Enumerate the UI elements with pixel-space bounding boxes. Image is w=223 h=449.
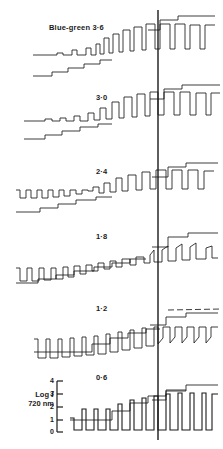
row-label-1-2: 1·2 xyxy=(96,304,107,313)
axis-tick-label-1: 1 xyxy=(46,416,54,423)
axis-tick-label-4: 4 xyxy=(46,377,54,384)
traces-plot xyxy=(0,0,223,449)
dashed-level-line-1-2 xyxy=(168,309,222,310)
stimulus-staircase-3-6 xyxy=(33,60,112,76)
stimulus-staircase-3-0 xyxy=(24,124,112,139)
response-trace-1-8 xyxy=(16,243,218,281)
trace-row-1-2 xyxy=(34,309,222,358)
response-trace-0-6 xyxy=(70,393,218,430)
response-trace-1-2 xyxy=(34,327,218,358)
trace-row-1-8 xyxy=(16,233,218,283)
axis-tick-label-3: 3 xyxy=(46,390,54,397)
stimulus-staircase-1-8 xyxy=(16,259,146,283)
recording-traces-figure: Blue-green 3·6 3·0 2·4 1·8 1·2 0·6 Log I… xyxy=(0,0,223,449)
trace-row-3-0 xyxy=(24,85,220,139)
level-line-1-8 xyxy=(152,233,218,247)
trace-row-0-6 xyxy=(70,385,218,430)
response-trace-2-4 xyxy=(16,170,214,198)
row-label-1-8: 1·8 xyxy=(96,232,107,241)
trace-row-2-4 xyxy=(16,163,218,212)
row-label-3-0: 3·0 xyxy=(96,93,107,102)
row-label-0-6: 0·6 xyxy=(96,373,107,382)
row-label-2-4: 2·4 xyxy=(96,167,107,176)
calibration-axis xyxy=(57,381,63,432)
axis-tick-label-0: 0 xyxy=(46,428,54,435)
level-line-1-2 xyxy=(150,313,218,325)
stimulus-staircase-1-2 xyxy=(34,329,160,352)
stimulus-staircase-2-4 xyxy=(16,197,112,212)
axis-tick-label-2: 2 xyxy=(46,403,54,410)
level-line-0-6 xyxy=(152,385,218,400)
response-trace-3-0 xyxy=(24,92,220,121)
row-label-blue-green-3-6: Blue-green 3·6 xyxy=(49,23,104,32)
